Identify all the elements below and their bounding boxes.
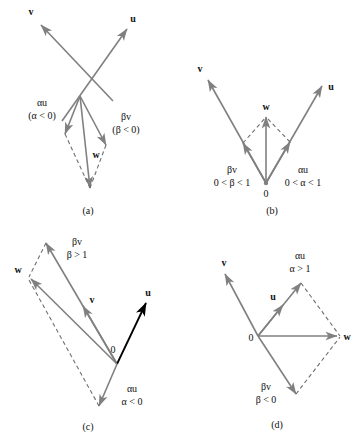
panel-b-label-beta-v: βv [227,164,237,175]
panel-c-vector-alpha-u [99,364,117,406]
panel-d-vector-v [225,274,258,336]
panel-a-label-u: u [130,13,136,24]
panel-d-label-beta-v: βv [261,381,271,392]
panel-a-label-alpha-condition: (α < 0) [28,110,56,122]
panel-d-label-w: w [343,331,351,342]
panel-a-caption: (a) [82,205,93,217]
panel-d: v u w 0 αu α > 1 βv β < 0 (d) [222,250,352,431]
panel-b-origin-dot [264,181,268,185]
panel-a-dashed-side-left [65,134,90,188]
panel-a-label-v: v [29,6,34,17]
panel-c-dashed-side-bottom [29,280,99,406]
figure-canvas: v u w αu (α < 0) βv (β < 0) (a) [0,0,363,440]
panel-a-label-beta-condition: (β < 0) [112,124,139,136]
panel-b-dashed-side-right [266,117,290,142]
panel-c-label-beta-condition: β > 1 [67,249,88,260]
panel-b: v u w 0 βv 0 < β < 1 αu 0 < α < 1 (b) [198,63,335,217]
panel-c-label-origin: 0 [111,344,116,355]
panel-a-vector-u [62,29,127,121]
panel-d-label-beta-condition: β < 0 [256,394,277,405]
panel-b-label-u: u [328,81,334,92]
panel-b-label-alpha-u: αu [298,164,308,175]
panel-c-label-beta-v: βv [72,236,82,247]
panel-a: v u w αu (α < 0) βv (β < 0) (a) [28,6,139,217]
panel-a-vector-alpha-u [65,96,80,134]
panel-c-vector-u [117,303,146,364]
vector-addition-figure: v u w αu (α < 0) βv (β < 0) (a) [0,0,363,440]
panel-a-vector-w [80,96,90,188]
panel-d-label-alpha-condition: α > 1 [290,263,311,274]
panel-a-label-alpha-u: αu [37,97,47,108]
panel-b-label-w: w [262,101,270,112]
panel-c-label-u: u [145,287,151,298]
panel-b-dashed-side-left [243,117,266,143]
panel-b-label-alpha-condition: 0 < α < 1 [285,177,322,188]
panel-d-label-origin: 0 [249,332,254,343]
panel-b-label-origin: 0 [264,188,269,199]
panel-c-label-alpha-condition: α < 0 [122,396,143,407]
panel-c-dashed-side-top [29,243,46,277]
panel-c-caption: (c) [82,421,93,433]
panel-c-label-alpha-u: αu [127,383,137,394]
panel-b-label-beta-condition: 0 < β < 1 [214,177,250,188]
panel-a-label-w: w [92,149,100,160]
panel-b-label-v: v [198,63,203,74]
panel-d-dashed-side-upper [301,283,340,336]
panel-a-label-beta-v: βv [121,111,131,122]
panel-d-label-v: v [222,257,227,268]
panel-d-label-u: u [270,291,276,302]
panel-c-label-v: v [90,294,95,305]
panel-c: w v u 0 βv β > 1 αu α < 0 (c) [14,236,151,433]
panel-b-caption: (b) [266,205,278,217]
panel-d-label-alpha-u: αu [295,250,305,261]
panel-d-caption: (d) [271,419,283,431]
panel-d-vector-u [258,305,283,336]
panel-d-dashed-side-lower [296,337,340,394]
panel-c-label-w: w [14,264,22,275]
